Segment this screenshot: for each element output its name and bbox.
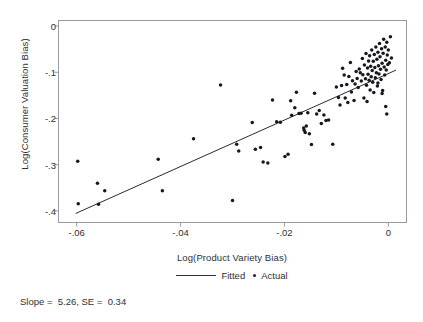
scatter-point [364, 77, 368, 81]
scatter-point [346, 101, 350, 105]
scatter-point [275, 120, 279, 124]
scatter-point [340, 84, 344, 88]
scatter-point [250, 121, 254, 125]
scatter-point [372, 59, 376, 63]
y-tick-label: 0 [51, 21, 56, 32]
x-tick-label: 0 [386, 227, 391, 238]
scatter-point [365, 100, 369, 104]
y-tick-label: -.2 [45, 113, 56, 124]
scatter-point [237, 149, 241, 153]
scatter-point [362, 96, 366, 100]
legend-label-actual: Actual [261, 270, 287, 281]
scatter-point [380, 92, 384, 96]
scatter-point [381, 89, 385, 93]
scatter-point [366, 73, 370, 77]
legend-dot-swatch [253, 274, 256, 277]
scatter-point [303, 131, 307, 135]
chart-figure: Log(Consumer Valuation Bias) -.06-.04-.0… [0, 0, 423, 322]
scatter-point [331, 142, 335, 146]
x-axis-ticks [77, 223, 389, 227]
scatter-point [382, 37, 386, 41]
scatter-point [351, 79, 355, 83]
scatter-point [387, 48, 391, 52]
scatter-point [342, 73, 346, 77]
y-tick-label: -.1 [45, 67, 56, 78]
scatter-point [378, 42, 382, 46]
scatter-point [261, 160, 265, 164]
scatter-point [379, 68, 383, 72]
scatter-point [361, 57, 365, 61]
scatter-point [367, 59, 371, 63]
scatter-point [376, 84, 380, 88]
scatter-point [354, 70, 358, 74]
scatter-point [76, 202, 80, 206]
scatter-point [374, 45, 378, 49]
scatter-point [286, 153, 290, 157]
scatter-point [322, 113, 326, 117]
scatter-point [266, 161, 270, 165]
x-tick-label: -.06 [68, 227, 84, 238]
scatter-point [384, 59, 388, 63]
scatter-point [355, 77, 359, 81]
y-tick-label: -.3 [45, 159, 56, 170]
scatter-point [235, 142, 239, 146]
scatter-point [161, 189, 165, 193]
scatter-point [366, 66, 370, 70]
scatter-point [289, 99, 293, 103]
scatter-point [345, 83, 349, 87]
scatter-point [379, 78, 383, 82]
scatter-point [338, 103, 342, 107]
scatter-point [374, 76, 378, 80]
scatter-point [315, 112, 319, 116]
legend-entry-fitted: Fitted [176, 270, 245, 281]
scatter-point [382, 65, 386, 69]
legend-line-swatch [176, 275, 216, 276]
scatter-point [390, 56, 394, 60]
scatter-point [279, 120, 283, 124]
scatter-point [367, 78, 371, 82]
scatter-point [386, 53, 390, 57]
scatter-point [353, 82, 357, 86]
scatter-point [377, 72, 381, 76]
x-axis-title: Log(Product Variety Bias) [58, 252, 406, 263]
scatter-point [385, 112, 389, 116]
scatter-point [352, 99, 356, 103]
scatter-point [76, 160, 80, 164]
scatter-point [363, 63, 367, 67]
scatter-point [375, 58, 379, 62]
scatter-point [308, 132, 312, 136]
scatter-point [370, 69, 374, 73]
scatter-point [349, 61, 353, 64]
scatter-point [271, 98, 275, 102]
x-tick-label: -.02 [276, 227, 292, 238]
scatter-point [369, 65, 373, 69]
scatter-point [320, 122, 324, 126]
scatter-point [370, 48, 374, 52]
scatter-point [219, 83, 223, 87]
scatter-point [103, 189, 107, 193]
scatter-point [295, 90, 299, 94]
scatter-point [369, 75, 373, 79]
scatter-point [350, 90, 354, 94]
scatter-point [305, 124, 309, 128]
scatter-point [373, 66, 377, 70]
scatter-point [313, 92, 317, 96]
legend-label-fitted: Fitted [221, 270, 245, 281]
scatter-point [372, 91, 376, 95]
scatter-point [341, 67, 345, 71]
scatter-point [337, 96, 341, 100]
scatter-point [356, 86, 360, 90]
scatter-point [364, 52, 368, 56]
legend-entry-actual: Actual [253, 270, 287, 281]
scatter-point [373, 53, 377, 57]
scatter-point [371, 80, 375, 84]
fitted-line [76, 70, 396, 213]
scatter-point [384, 105, 388, 109]
scatter-point [360, 79, 364, 83]
scatter-points [76, 35, 393, 206]
scatter-point [317, 109, 321, 113]
scatter-point [97, 202, 101, 206]
scatter-point [310, 143, 314, 147]
scatter-point [299, 111, 303, 115]
scatter-point [381, 52, 385, 56]
